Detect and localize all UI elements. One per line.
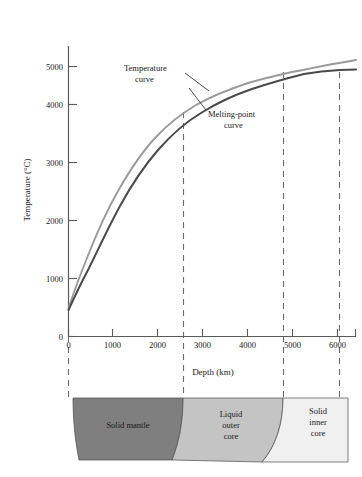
x-tick-label-6000: 6000 (329, 340, 346, 350)
y-tick-label-3000: 3000 (46, 158, 63, 168)
y-tick-label-1000: 1000 (46, 274, 63, 284)
layer-label-liquid-outer-core-line2: outer (222, 420, 240, 430)
y-axis-title: Temperature (°C) (22, 158, 32, 221)
temperature-curve-label-line1: Temperature (124, 63, 167, 73)
x-tick-label-3000: 3000 (194, 340, 211, 350)
temperature-curve-label-line2: curve (135, 74, 154, 84)
layer-label-liquid-outer-core-line1: Liquid (220, 409, 243, 419)
x-tick-label-0: 0 (66, 340, 70, 350)
y-tick-label-4000: 4000 (46, 100, 63, 110)
earth-temperature-depth-figure: 0 1000 2000 3000 4000 5000 0 1000 2000 3… (0, 0, 362, 477)
melting-point-curve-label-line1: Melting-point (208, 109, 256, 119)
y-tick-label-0: 0 (59, 332, 63, 342)
x-tick-label-1000: 1000 (104, 340, 121, 350)
y-tick-label-2000: 2000 (46, 216, 63, 226)
figure-canvas: 0 1000 2000 3000 4000 5000 0 1000 2000 3… (0, 0, 362, 477)
x-axis-title: Depth (km) (192, 367, 234, 377)
x-tick-label-2000: 2000 (149, 340, 166, 350)
x-tick-label-4000: 4000 (239, 340, 256, 350)
layer-label-solid-mantle: Solid mantle (106, 420, 149, 430)
layer-bar: Solid mantle Liquid outer core Solid inn… (73, 398, 348, 462)
layer-label-solid-inner-core-line2: inner (309, 417, 327, 427)
layer-segment-liquid-outer-core (172, 398, 283, 462)
melting-point-curve-label-line2: curve (224, 120, 243, 130)
x-tick-label-5000: 5000 (284, 340, 301, 350)
y-tick-label-5000: 5000 (46, 62, 63, 72)
layer-label-solid-inner-core-line1: Solid (309, 406, 328, 416)
layer-label-solid-inner-core-line3: core (311, 428, 326, 438)
layer-label-liquid-outer-core-line3: core (224, 431, 239, 441)
